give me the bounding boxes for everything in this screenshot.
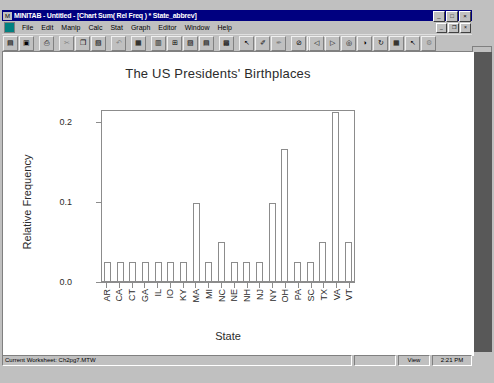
x-axis-tick-label: TX bbox=[320, 289, 327, 329]
bar-chart: The US Presidents' Birthplaces Relative … bbox=[3, 52, 453, 355]
menu-item-graph[interactable]: Graph bbox=[127, 22, 154, 33]
window-title: MINITAB - Untitled - [Chart Sum( Rel Fre… bbox=[14, 10, 197, 21]
select-arrow-button[interactable]: ↖ bbox=[239, 36, 254, 51]
x-axis-tick bbox=[192, 282, 199, 288]
graph-pointer-button[interactable]: ↖ bbox=[405, 36, 420, 51]
y-axis-tick-label: 0.2 bbox=[59, 117, 72, 127]
bar[interactable] bbox=[129, 262, 136, 281]
main-toolbar: ▤ ▣ ⎙ ✂ ❐ ▧ ↶ ▦ ▥ ⊞ ▨ ▤ ▩ ↖ ✐ ✒ ⊘ ↑ ▥ ◁ … bbox=[2, 34, 472, 52]
cut-button[interactable]: ✂ bbox=[59, 36, 74, 51]
x-axis-tick-label: MI bbox=[205, 289, 212, 329]
history-window-button[interactable]: ▨ bbox=[183, 36, 198, 51]
bar[interactable] bbox=[117, 262, 124, 281]
menu-item-editor[interactable]: Editor bbox=[154, 22, 180, 33]
toolbar-separator bbox=[215, 37, 218, 50]
bar[interactable] bbox=[193, 203, 200, 281]
brush-button[interactable]: ✐ bbox=[255, 36, 270, 51]
minitab-application-window: M MINITAB - Untitled - [Chart Sum( Rel F… bbox=[0, 0, 494, 383]
mdi-restore-button[interactable]: ❐ bbox=[448, 23, 459, 33]
bar[interactable] bbox=[345, 242, 352, 281]
close-button[interactable]: × bbox=[459, 11, 471, 22]
x-axis-tick bbox=[282, 282, 289, 288]
x-axis-tick-labels: ARCACTGAILIOKYMAMINCNENHNJNYOHPASCTXVAVT bbox=[101, 289, 355, 329]
y-axis-tick-label: 0.1 bbox=[59, 197, 72, 207]
x-axis-tick bbox=[333, 282, 340, 288]
document-system-icon[interactable] bbox=[4, 22, 15, 33]
copy-button[interactable]: ❐ bbox=[75, 36, 90, 51]
bar[interactable] bbox=[142, 262, 149, 281]
bar[interactable] bbox=[281, 149, 288, 281]
maximize-button[interactable]: □ bbox=[446, 11, 458, 22]
paste-button[interactable]: ▧ bbox=[91, 36, 106, 51]
x-axis-tick-label: VA bbox=[333, 289, 340, 329]
data-window-button[interactable]: ⊞ bbox=[167, 36, 182, 51]
bar[interactable] bbox=[256, 262, 263, 281]
minimize-button[interactable]: _ bbox=[433, 11, 445, 22]
menu-item-window[interactable]: Window bbox=[181, 22, 214, 33]
bar[interactable] bbox=[307, 262, 314, 281]
mdi-close-button[interactable]: × bbox=[460, 23, 471, 33]
graph-zoom-in-button[interactable]: ▷ bbox=[325, 36, 340, 51]
bar[interactable] bbox=[155, 262, 162, 281]
open-worksheet-button[interactable]: ▤ bbox=[3, 36, 18, 51]
bar[interactable] bbox=[104, 262, 111, 281]
graph-settings-button[interactable]: ⚙ bbox=[421, 36, 436, 51]
x-axis-tick bbox=[256, 282, 263, 288]
menu-item-calc[interactable]: Calc bbox=[84, 22, 106, 33]
mdi-minimize-button[interactable]: _ bbox=[436, 23, 447, 33]
cancel-button[interactable]: ⊘ bbox=[291, 36, 306, 51]
x-axis-tick-label: IO bbox=[167, 289, 174, 329]
menu-item-manip[interactable]: Manip bbox=[57, 22, 84, 33]
menu-item-help[interactable]: Help bbox=[214, 22, 236, 33]
graph-grid-button[interactable]: ▦ bbox=[389, 36, 404, 51]
bar[interactable] bbox=[243, 262, 250, 281]
save-project-button[interactable]: ▣ bbox=[19, 36, 34, 51]
bar[interactable] bbox=[205, 262, 212, 281]
x-axis-tick-marks bbox=[101, 282, 355, 288]
status-current-worksheet: Current Worksheet: Ch2pg7.MTW bbox=[2, 355, 352, 366]
x-axis-tick bbox=[244, 282, 251, 288]
x-axis-tick bbox=[346, 282, 353, 288]
x-axis-tick bbox=[308, 282, 315, 288]
bar[interactable] bbox=[218, 242, 225, 281]
x-axis-tick-label: AR bbox=[103, 289, 110, 329]
bar[interactable] bbox=[269, 203, 276, 281]
edit-tool-button[interactable]: ✒ bbox=[271, 36, 286, 51]
x-axis-tick-label: NE bbox=[231, 289, 238, 329]
toolbar-separator bbox=[35, 37, 38, 50]
bar[interactable] bbox=[294, 262, 301, 281]
menu-bar: File Edit Manip Calc Stat Graph Editor W… bbox=[2, 22, 472, 33]
y-axis-tick-label: 0.0 bbox=[59, 277, 72, 287]
status-bar: Current Worksheet: Ch2pg7.MTW View 2:21 … bbox=[2, 355, 472, 366]
plot-area bbox=[101, 110, 355, 282]
x-axis-tick bbox=[103, 282, 110, 288]
x-axis-tick bbox=[167, 282, 174, 288]
graph-rotate-button[interactable]: ↻ bbox=[373, 36, 388, 51]
menu-item-stat[interactable]: Stat bbox=[106, 22, 126, 33]
x-axis-tick-label: SC bbox=[308, 289, 315, 329]
x-axis-tick bbox=[154, 282, 161, 288]
bar[interactable] bbox=[167, 262, 174, 281]
graph-pan-button[interactable]: ◎ bbox=[341, 36, 356, 51]
x-axis-tick-label: CA bbox=[116, 289, 123, 329]
toolbar-separator bbox=[55, 37, 58, 50]
menu-item-edit[interactable]: Edit bbox=[37, 22, 57, 33]
bar[interactable] bbox=[231, 262, 238, 281]
bar[interactable] bbox=[332, 112, 339, 281]
project-manager-button[interactable]: ▤ bbox=[199, 36, 214, 51]
menu-item-file[interactable]: File bbox=[18, 22, 37, 33]
graph-zoom-out-button[interactable]: ◁ bbox=[309, 36, 324, 51]
session-window-button[interactable]: ▥ bbox=[151, 36, 166, 51]
bar[interactable] bbox=[319, 242, 326, 281]
x-axis-tick bbox=[269, 282, 276, 288]
toolbar-separator bbox=[107, 37, 110, 50]
undo-button[interactable]: ↶ bbox=[111, 36, 126, 51]
bar[interactable] bbox=[180, 262, 187, 281]
find-button[interactable]: ▦ bbox=[131, 36, 146, 51]
graph-contrast-button[interactable]: ◑ bbox=[357, 36, 372, 51]
x-axis-tick-label: PA bbox=[295, 289, 302, 329]
minitab-icon[interactable]: M bbox=[3, 12, 12, 20]
show-graphs-button[interactable]: ▩ bbox=[219, 36, 234, 51]
toolbar-separator bbox=[287, 37, 290, 50]
print-button[interactable]: ⎙ bbox=[39, 36, 54, 51]
